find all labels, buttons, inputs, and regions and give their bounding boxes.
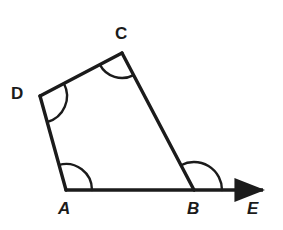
segment-BC (122, 53, 194, 190)
vertex-label-b: B (187, 200, 199, 217)
vertex-label-d: D (11, 85, 23, 102)
vertex-label-e: E (247, 200, 258, 217)
vertex-label-c: C (115, 25, 127, 42)
geometry-canvas (0, 0, 283, 230)
vertex-label-a: A (58, 200, 70, 217)
angle-arcs (47, 65, 222, 190)
geometry-figure: A B C D E (0, 0, 283, 230)
polygon-sides (40, 53, 194, 190)
